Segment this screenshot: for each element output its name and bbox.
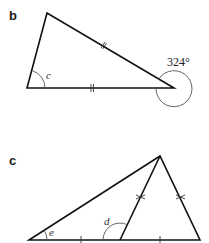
geometry-figure: b c 324° c e d [0, 0, 209, 243]
triangle-c-outer [29, 156, 200, 240]
angle-label-c: c [46, 69, 51, 81]
diagram-b: b c 324° [9, 8, 192, 107]
reflex-angle-label: 324° [167, 55, 190, 69]
part-label-c: c [9, 153, 16, 168]
angle-arc-c [32, 71, 45, 88]
angle-label-d: d [104, 215, 110, 227]
part-label-b: b [9, 8, 17, 23]
angle-arc-e [44, 230, 47, 240]
diagram-c: c e d [9, 153, 200, 243]
angle-label-e: e [49, 226, 54, 238]
